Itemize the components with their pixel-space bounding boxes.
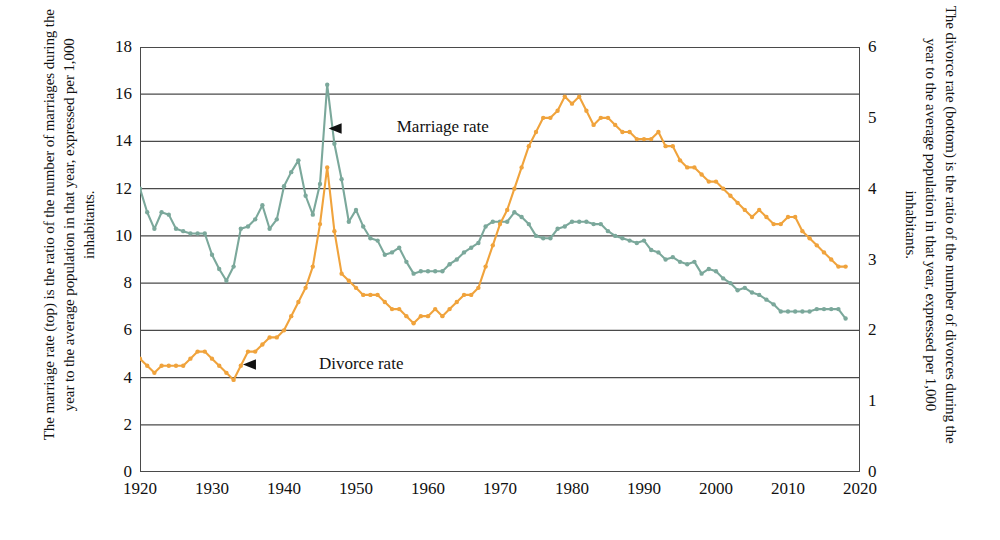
data-point [469,245,473,249]
data-point [203,349,207,353]
data-point [174,364,178,368]
data-point [260,203,264,207]
data-point [642,238,646,242]
annotation-arrow-head [329,123,342,133]
data-point [570,220,574,224]
data-point [635,137,639,141]
data-point [167,212,171,216]
data-point [541,236,545,240]
data-point [836,307,840,311]
data-point [411,321,415,325]
data-point [656,250,660,254]
x-tick-2010: 2010 [771,479,805,499]
data-point [217,267,221,271]
x-tick-1990: 1990 [627,479,661,499]
left-tick-10: 10 [115,226,132,246]
data-point [793,309,797,313]
data-point [649,137,653,141]
data-point [699,271,703,275]
data-point [577,220,581,224]
data-point [591,222,595,226]
x-tick-1930: 1930 [195,479,229,499]
data-point [764,297,768,301]
data-point [505,208,509,212]
data-point [354,286,358,290]
data-point [822,307,826,311]
data-point [843,316,847,320]
data-point [505,220,509,224]
data-point [555,227,559,231]
data-point [793,215,797,219]
data-point [548,116,552,120]
data-point [822,250,826,254]
right-tick-1: 1 [868,391,877,411]
right-tick-3: 3 [868,250,877,270]
data-point [491,220,495,224]
data-point [786,215,790,219]
data-point [771,222,775,226]
data-point [743,286,747,290]
data-point [210,253,214,257]
data-point [692,260,696,264]
series-line-divorce-rate [140,97,846,380]
left-tick-4: 4 [124,368,133,388]
data-point [383,300,387,304]
data-point [606,229,610,233]
data-point [815,243,819,247]
data-point [635,241,639,245]
data-point [663,257,667,261]
data-point [267,335,271,339]
data-point [620,236,624,240]
data-point [433,307,437,311]
x-tick-1920: 1920 [123,479,157,499]
data-point [663,144,667,148]
data-point [462,293,466,297]
left-tick-18: 18 [115,37,132,57]
data-point [447,262,451,266]
data-point [440,269,444,273]
data-point [728,281,732,285]
data-point [339,271,343,275]
data-point [188,356,192,360]
data-point [757,293,761,297]
data-point [267,227,271,231]
data-point [332,229,336,233]
data-point [296,300,300,304]
data-point [303,194,307,198]
data-point [195,349,199,353]
data-point [253,349,257,353]
data-point [140,186,142,190]
data-point [807,309,811,313]
data-point [462,250,466,254]
data-point [239,227,243,231]
data-point [714,269,718,273]
data-point [498,222,502,226]
x-tick-1940: 1940 [267,479,301,499]
data-point [534,130,538,134]
data-point [383,253,387,257]
data-point [599,222,603,226]
data-point [433,269,437,273]
data-point [397,245,401,249]
data-point [815,307,819,311]
data-point [527,222,531,226]
data-point [145,210,149,214]
data-point [303,286,307,290]
data-point [404,260,408,264]
data-point [534,234,538,238]
data-point [455,300,459,304]
data-point [289,314,293,318]
data-point [599,116,603,120]
x-tick-1960: 1960 [411,479,445,499]
data-point [649,248,653,252]
data-point [750,215,754,219]
data-point [757,208,761,212]
data-point [800,309,804,313]
data-point [282,184,286,188]
data-point [519,215,523,219]
data-point [671,144,675,148]
left-tick-2: 2 [124,415,133,435]
data-point [728,194,732,198]
data-point [627,238,631,242]
data-point [764,215,768,219]
